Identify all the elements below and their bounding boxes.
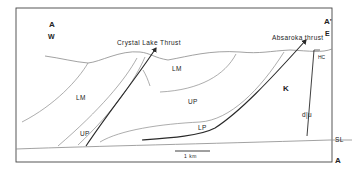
normal-fault-line <box>307 50 314 136</box>
crystal-lake-thrust-line <box>86 48 156 146</box>
unit-label-lp: LP <box>198 125 207 132</box>
unit-label-hc: HC <box>318 55 325 60</box>
bottom-right-label: A <box>335 157 341 165</box>
topographic-surface <box>45 49 332 63</box>
splay-line <box>143 70 150 86</box>
normal-fault-label: d|u <box>302 112 312 119</box>
sea-level-label: SL <box>335 137 344 144</box>
east-direction-label: E <box>325 30 330 37</box>
unit-label-lm-left: LM <box>76 95 86 102</box>
unit-label-up-left: UP <box>80 131 90 138</box>
absaroka-thrust-label: Absaroka thrust <box>272 35 324 42</box>
unit-label-up-center: UP <box>188 99 198 106</box>
unit-label-lm-center: LM <box>172 66 182 73</box>
west-direction-label: W <box>48 33 55 40</box>
section-start-label: A <box>49 21 55 29</box>
up-lp-contact <box>100 52 284 142</box>
bedding-contact-2 <box>58 58 137 146</box>
bedding-contact-1 <box>22 63 88 122</box>
absaroka-thrust-line <box>142 40 306 140</box>
crystal-lake-thrust-label: Crystal Lake Thrust <box>117 40 181 47</box>
scale-bar-label: 1 km <box>184 154 197 159</box>
unit-label-k: K <box>283 85 289 93</box>
section-end-label: A' <box>324 18 332 26</box>
sea-level-line <box>16 140 352 149</box>
